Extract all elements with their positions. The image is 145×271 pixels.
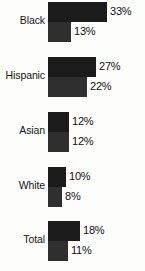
category-label: Total <box>0 234 45 245</box>
bar-value-label: 11% <box>71 244 92 257</box>
bar-lower <box>48 22 71 42</box>
bar-value-label: 27% <box>99 60 120 73</box>
bar-value-label: 22% <box>90 80 111 93</box>
bar-lower <box>48 241 68 261</box>
bar-value-label: 10% <box>69 170 90 183</box>
bar-value-label: 18% <box>83 224 104 237</box>
bar-upper <box>48 57 96 77</box>
bar-lower <box>48 187 62 207</box>
category-label: White <box>0 180 45 191</box>
bar-upper <box>48 112 69 132</box>
bar-value-label: 12% <box>72 135 93 148</box>
category-label: Hispanic <box>0 70 45 81</box>
bar-upper <box>48 167 66 187</box>
bar-value-label: 12% <box>72 115 93 128</box>
bar-lower <box>48 77 87 97</box>
category-label: Black <box>0 15 45 26</box>
bar-upper <box>48 2 107 22</box>
bar-value-label: 8% <box>65 190 81 203</box>
bar-lower <box>48 132 69 152</box>
bar-value-label: 13% <box>74 25 95 38</box>
bar-upper <box>48 221 80 241</box>
bar-chart: Black 33% 13% Hispanic 27% 22% <box>0 0 145 271</box>
category-label: Asian <box>0 125 45 136</box>
bar-value-label: 33% <box>110 5 131 18</box>
